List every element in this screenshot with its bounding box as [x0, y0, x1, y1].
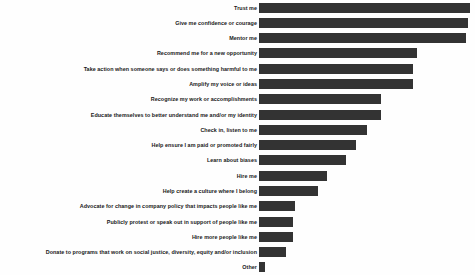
bar-category-label: Hire more people like me — [5, 234, 257, 240]
bar-category-label: Other — [5, 264, 257, 270]
bar-track — [259, 201, 470, 211]
bar-fill — [259, 79, 413, 89]
bar-row: Amplify my voice or ideas — [0, 76, 475, 91]
bar-category-label: Help ensure I am paid or promoted fairly — [5, 142, 257, 148]
bar-category-label: Check in, listen to me — [5, 127, 257, 133]
bar-row: Hire more people like me — [0, 229, 475, 244]
bar-track — [259, 3, 470, 13]
bar-row: Help ensure I am paid or promoted fairly — [0, 138, 475, 153]
bar-category-label: Trust me — [5, 5, 257, 11]
bar-row: Educate themselves to better understand … — [0, 107, 475, 122]
bar-category-label: Take action when someone says or does so… — [5, 66, 257, 72]
bar-fill — [259, 64, 413, 74]
bar-fill — [259, 201, 295, 211]
bar-track — [259, 217, 470, 227]
bar-category-label: Recommend me for a new opportunity — [5, 50, 257, 56]
bar-fill — [259, 140, 356, 150]
bar-category-label: Give me confidence or courage — [5, 20, 257, 26]
bar-category-label: Hire me — [5, 173, 257, 179]
bar-row: Recognize my work or accomplishments — [0, 92, 475, 107]
bar-fill — [259, 232, 293, 242]
bar-row: Give me confidence or courage — [0, 15, 475, 30]
bar-category-label: Donate to programs that work on social j… — [5, 249, 257, 255]
bar-track — [259, 48, 470, 58]
bar-fill — [259, 155, 346, 165]
bar-fill — [259, 18, 468, 28]
bar-fill — [259, 262, 265, 272]
bar-track — [259, 125, 470, 135]
bar-fill — [259, 171, 327, 181]
bar-row: Donate to programs that work on social j… — [0, 244, 475, 259]
bar-row: Help create a culture where I belong — [0, 183, 475, 198]
bar-row: Recommend me for a new opportunity — [0, 46, 475, 61]
bar-row: Advocate for change in company policy th… — [0, 199, 475, 214]
bar-category-label: Publicly protest or speak out in support… — [5, 219, 257, 225]
bar-fill — [259, 217, 293, 227]
bar-row: Other — [0, 260, 475, 275]
bar-category-label: Mentor me — [5, 35, 257, 41]
bar-track — [259, 247, 470, 257]
horizontal-bar-chart: Trust meGive me confidence or courageMen… — [0, 0, 475, 275]
bar-category-label: Learn about biases — [5, 157, 257, 163]
bar-track — [259, 186, 470, 196]
bar-category-label: Help create a culture where I belong — [5, 188, 257, 194]
bar-track — [259, 94, 470, 104]
bar-row: Learn about biases — [0, 153, 475, 168]
bar-row: Check in, listen to me — [0, 122, 475, 137]
bar-track — [259, 171, 470, 181]
bar-row: Publicly protest or speak out in support… — [0, 214, 475, 229]
bar-fill — [259, 247, 286, 257]
bar-fill — [259, 33, 466, 43]
bar-row: Mentor me — [0, 31, 475, 46]
bar-row: Take action when someone says or does so… — [0, 61, 475, 76]
bar-track — [259, 155, 470, 165]
bar-track — [259, 79, 470, 89]
bar-fill — [259, 125, 367, 135]
bar-row: Hire me — [0, 168, 475, 183]
bar-track — [259, 64, 470, 74]
bar-category-label: Advocate for change in company policy th… — [5, 203, 257, 209]
bar-category-label: Educate themselves to better understand … — [5, 112, 257, 118]
bar-track — [259, 110, 470, 120]
bar-track — [259, 262, 470, 272]
bar-category-label: Recognize my work or accomplishments — [5, 96, 257, 102]
bar-row: Trust me — [0, 0, 475, 15]
bar-category-label: Amplify my voice or ideas — [5, 81, 257, 87]
bar-track — [259, 140, 470, 150]
bar-fill — [259, 3, 470, 13]
bar-fill — [259, 94, 381, 104]
plot-area: Trust meGive me confidence or courageMen… — [0, 0, 475, 275]
bar-fill — [259, 186, 318, 196]
bar-fill — [259, 48, 417, 58]
bar-track — [259, 232, 470, 242]
bar-fill — [259, 110, 381, 120]
bar-track — [259, 33, 470, 43]
bar-track — [259, 18, 470, 28]
